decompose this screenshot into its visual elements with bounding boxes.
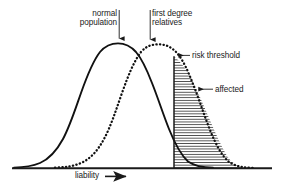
liability-axis-label: liability: [75, 171, 99, 180]
first-degree-relatives-curve: [55, 44, 254, 167]
affected-region: [172, 52, 248, 170]
diagram-canvas: [0, 0, 282, 189]
liability-threshold-diagram: normal population first degree relatives…: [0, 0, 282, 189]
risk-threshold-label: risk threshold: [192, 51, 240, 60]
first-degree-relatives-label: first degree relatives: [152, 9, 216, 28]
affected-label: affected: [215, 85, 244, 94]
normal-population-label: normal population: [63, 9, 117, 28]
